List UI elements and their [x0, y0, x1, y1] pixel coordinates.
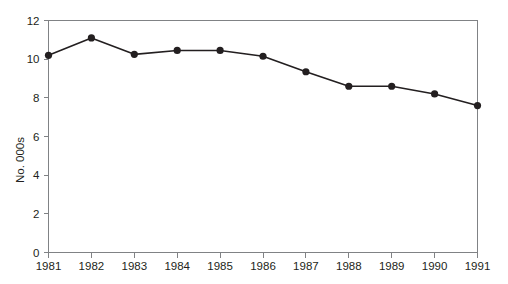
data-point-marker — [217, 47, 224, 54]
y-axis: 024681012 — [27, 15, 49, 259]
data-point-marker — [174, 47, 181, 54]
x-tick-label: 1986 — [250, 260, 276, 272]
data-point-marker — [474, 102, 481, 109]
y-tick-label: 8 — [33, 92, 39, 104]
series-line — [49, 38, 478, 106]
x-tick-label: 1988 — [336, 260, 362, 272]
x-tick-label: 1981 — [36, 260, 62, 272]
data-point-marker — [388, 83, 395, 90]
x-tick-label: 1984 — [164, 260, 190, 272]
x-axis: 1981198219831984198519861987198819891990… — [36, 253, 491, 272]
y-tick-label: 2 — [33, 208, 39, 220]
x-tick-label: 1991 — [465, 260, 491, 272]
y-tick-label: 0 — [33, 247, 39, 259]
data-point-marker — [345, 83, 352, 90]
x-tick-label: 1983 — [122, 260, 148, 272]
y-tick-label: 10 — [27, 53, 40, 65]
data-point-marker — [431, 90, 438, 97]
x-tick-label: 1987 — [293, 260, 319, 272]
data-point-marker — [302, 68, 309, 75]
x-tick-label: 1989 — [379, 260, 405, 272]
data-point-marker — [45, 52, 52, 59]
y-tick-label: 4 — [33, 169, 40, 181]
x-tick-label: 1985 — [207, 260, 233, 272]
data-point-marker — [131, 51, 138, 58]
y-axis-title: No. 000s — [14, 137, 26, 183]
data-point-marker — [259, 53, 266, 60]
data-point-marker — [88, 34, 95, 41]
y-tick-label: 12 — [27, 15, 40, 27]
y-tick-label: 6 — [33, 131, 39, 143]
x-tick-label: 1982 — [79, 260, 105, 272]
data-series — [45, 34, 481, 109]
x-tick-label: 1990 — [422, 260, 448, 272]
line-chart: 024681012 198119821983198419851986198719… — [0, 0, 508, 284]
chart-canvas: 024681012 198119821983198419851986198719… — [0, 0, 508, 284]
